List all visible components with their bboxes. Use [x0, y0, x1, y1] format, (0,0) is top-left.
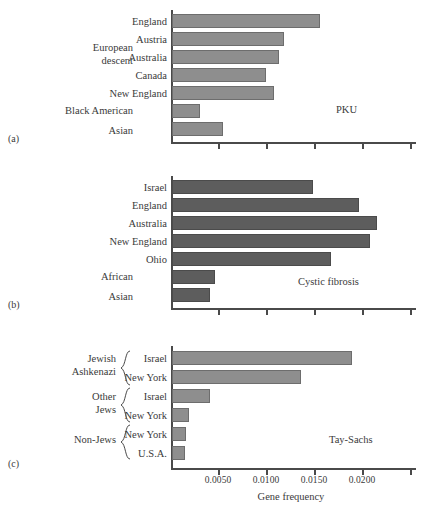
bar-b-israel: [172, 180, 313, 194]
cat-label-australia: Australia: [7, 52, 167, 63]
panel-b-tick-4: [362, 309, 364, 315]
bar-c-israel-other: [172, 389, 210, 403]
panel-b-tick-5: [410, 309, 412, 315]
panel-b-annotation: Cystic fibrosis: [298, 276, 359, 287]
bar-a-austria: [172, 32, 284, 46]
cat-label-canada: Canada: [7, 70, 167, 81]
panel-b-plot: Cystic fibrosis: [171, 166, 430, 316]
x-tick-label-3: 0.0150: [301, 475, 328, 485]
bar-b-african: [172, 270, 215, 284]
panel-c: (c) Jewish Ashkenazi Other Jews Non-Jews: [0, 338, 430, 509]
panel-a-tick-5: [410, 143, 412, 149]
bar-a-new-england: [172, 86, 274, 100]
cat-label-israel-other: Israel: [7, 391, 167, 402]
cat-label-israel: Israel: [7, 182, 167, 193]
cat-label-new-england: New England: [7, 88, 167, 99]
bar-b-ohio: [172, 252, 331, 266]
bar-a-england: [172, 14, 320, 28]
cat-label-new-york-nonjews: New York: [7, 429, 167, 440]
bar-c-israel-ashkenazi: [172, 351, 352, 365]
panel-a: (a) European descent European descent Bl…: [0, 0, 430, 160]
cat-label-ohio: Ohio: [7, 254, 167, 265]
panel-c-x-axis: [171, 468, 416, 470]
cat-label-new-york-ashkenazi: New York: [7, 372, 167, 383]
panel-a-tick-2: [266, 143, 268, 149]
panel-a-annotation: PKU: [336, 104, 357, 115]
cat-label-israel-ashkenazi: Israel: [7, 353, 167, 364]
bar-c-new-york-other: [172, 408, 189, 422]
panel-c-annotation: Tay-Sachs: [329, 434, 373, 445]
bar-c-new-york-nonjews: [172, 427, 186, 441]
bar-c-usa-nonjews: [172, 446, 185, 460]
cat-label-austria: Austria: [7, 34, 167, 45]
x-axis-title: Gene frequency: [258, 491, 325, 502]
x-tick-label-4: 0.0200: [349, 475, 376, 485]
panel-c-tick-5: [410, 469, 412, 475]
panel-a-tick-1: [218, 143, 220, 149]
bar-a-australia: [172, 50, 279, 64]
bar-b-australia: [172, 216, 377, 230]
cat-label-new-england: New England: [7, 236, 167, 247]
bar-b-asian: [172, 288, 210, 302]
gene-frequency-figure: (a) European descent European descent Bl…: [0, 0, 430, 509]
x-tick-label-2: 0.0100: [253, 475, 280, 485]
bar-a-asian: [172, 122, 223, 136]
panel-c-plot: Tay-Sachs 0.0050 0.0100 0.0150 0.0200 Ge…: [171, 338, 430, 509]
panel-a-tick-3: [314, 143, 316, 149]
panel-c-category-labels: Israel New York Israel New York New York…: [0, 338, 167, 509]
bar-a-canada: [172, 68, 266, 82]
bar-b-new-england: [172, 234, 370, 248]
panel-a-category-labels: England Austria Australia Canada New Eng…: [0, 0, 167, 160]
cat-label-usa-nonjews: U.S.A.: [7, 448, 167, 459]
bar-c-new-york-ashkenazi: [172, 370, 301, 384]
panel-a-plot: PKU: [171, 0, 430, 150]
panel-a-x-axis: [171, 142, 416, 144]
panel-b-tick-3: [314, 309, 316, 315]
cat-label-australia: Australia: [7, 218, 167, 229]
bar-a-black-american: [172, 104, 200, 118]
bar-b-england: [172, 198, 359, 212]
panel-a-tick-4: [362, 143, 364, 149]
cat-label-england: England: [7, 200, 167, 211]
panel-b-category-labels: Israel England Australia New England Ohi…: [0, 166, 167, 326]
panel-b-tick-2: [266, 309, 268, 315]
x-tick-label-1: 0.0050: [205, 475, 232, 485]
cat-label-new-york-other: New York: [7, 410, 167, 421]
panel-b-tick-1: [218, 309, 220, 315]
panel-b: (b) African Asian Israel England Austral…: [0, 166, 430, 326]
cat-label-england: England: [7, 16, 167, 27]
panel-b-x-axis: [171, 308, 416, 310]
